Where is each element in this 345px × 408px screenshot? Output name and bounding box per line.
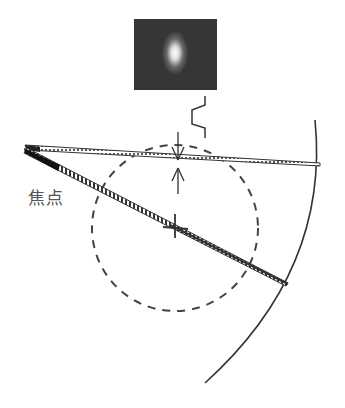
- focus-label: 焦点: [28, 184, 64, 209]
- width-arrows: [172, 132, 184, 194]
- step-line-icon: [192, 96, 205, 138]
- spot-image: [134, 19, 217, 90]
